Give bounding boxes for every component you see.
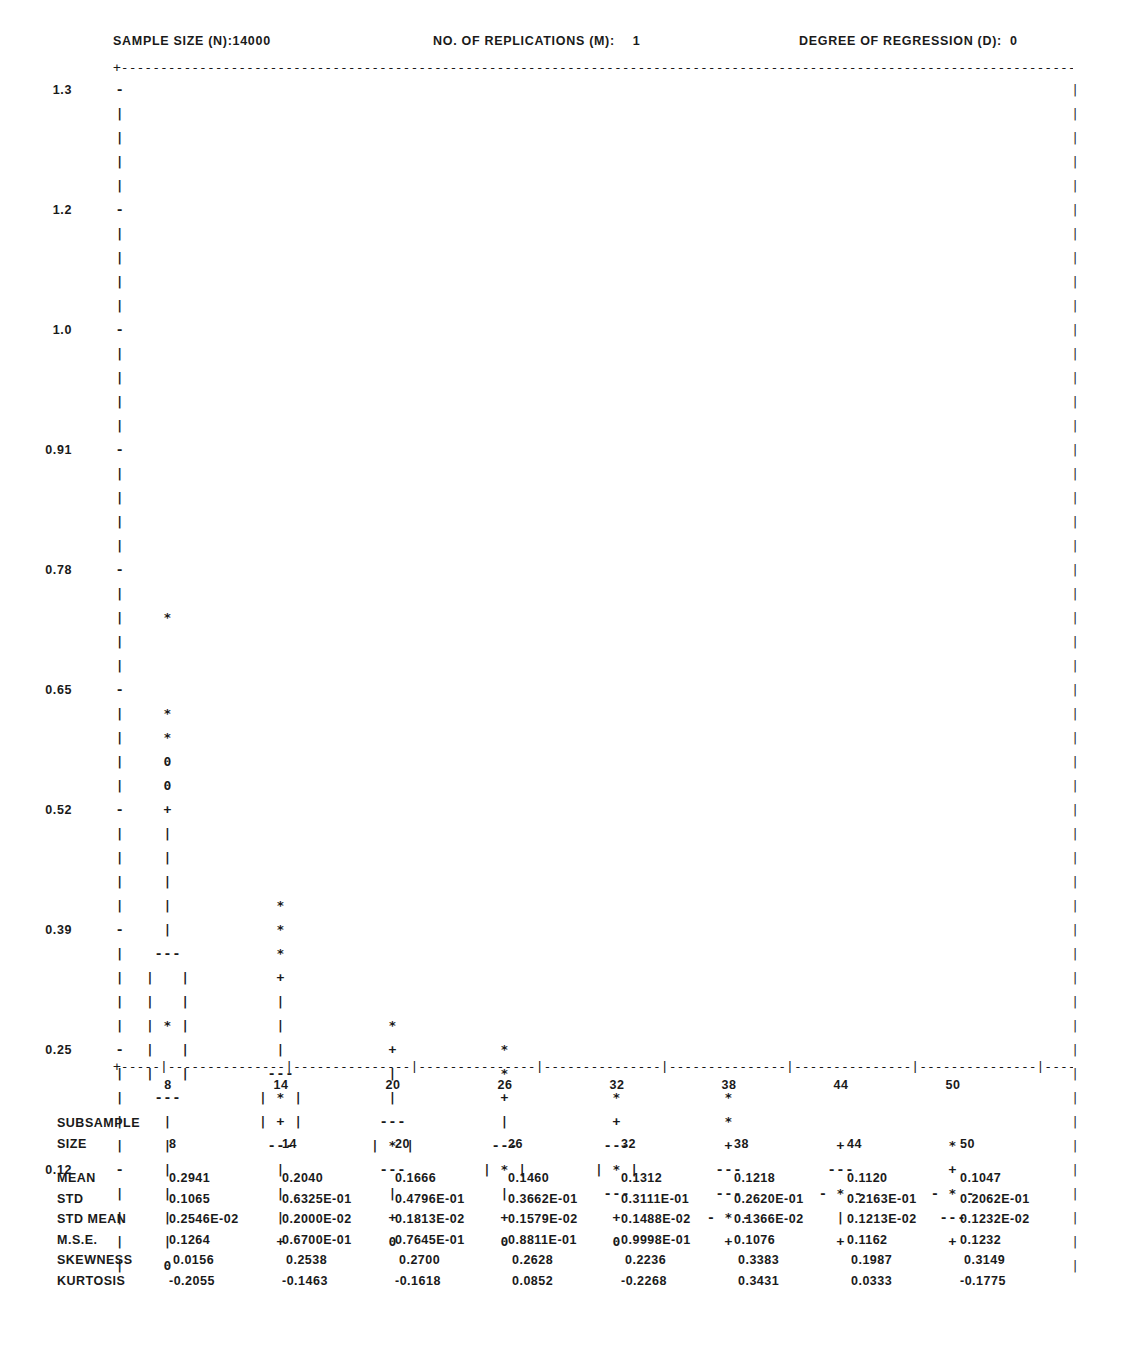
stats-cell-value: 0.1162: [847, 1233, 960, 1254]
stats-table-row: STD0.10650.6325E-010.4796E-010.3662E-010…: [57, 1192, 1073, 1213]
stats-header-spacer: [621, 1116, 734, 1137]
stats-cell-value: 0.1312: [621, 1171, 734, 1192]
stats-row-label: STD MEAN: [57, 1212, 169, 1233]
stats-header-spacer: [847, 1116, 960, 1137]
plot-glyph-row: +: [0, 798, 1130, 822]
plot-glyph-row: [0, 318, 1130, 342]
stats-column-header: 26: [508, 1137, 621, 1171]
stats-table-row: SKEWNESS 0.0156 0.2538 0.2700 0.2628 0.2…: [57, 1253, 1073, 1274]
plot-glyph-row: ---*: [0, 942, 1130, 966]
stats-column-header: 44: [847, 1137, 960, 1171]
stats-column-header: 14: [282, 1137, 395, 1171]
stats-cell-value: 0.3149: [960, 1253, 1073, 1274]
box-plot-glyph-8: | |: [140, 966, 196, 990]
stats-header-spacer: [169, 1116, 282, 1137]
plot-glyph-row: | * ||*: [0, 1014, 1130, 1038]
stats-cell-value: 0.3662E-01: [508, 1192, 621, 1213]
plot-glyph-row: [0, 102, 1130, 126]
box-plot-glyph-8: *: [140, 702, 196, 726]
box-plot-glyph-14: |: [253, 1038, 309, 1062]
stats-table-element: SUBSAMPLESIZE814202632384450MEAN0.29410.…: [57, 1116, 1073, 1294]
x-axis-tick-label: 50: [923, 1078, 983, 1092]
stats-cell-value: 0.1987: [847, 1253, 960, 1274]
stats-row-label: M.S.E.: [57, 1233, 169, 1254]
plot-glyph-row: |: [0, 822, 1130, 846]
stats-header-spacer: [734, 1116, 847, 1137]
plot-glyph-row: [0, 534, 1130, 558]
stats-table-row: STD MEAN0.2546E-020.2000E-020.1813E-020.…: [57, 1212, 1073, 1233]
stats-column-header: 20: [395, 1137, 508, 1171]
stats-cell-value: 0.1366E-02: [734, 1212, 847, 1233]
box-plot-glyph-14: |: [253, 990, 309, 1014]
box-plot-glyph-8: 0: [140, 750, 196, 774]
box-plot-glyph-14: *: [253, 918, 309, 942]
box-plot-glyph-8: |: [140, 894, 196, 918]
plot-glyph-row: [0, 78, 1130, 102]
stats-cell-value: -0.1775: [960, 1274, 1073, 1295]
stats-cell-value: 0.1218: [734, 1171, 847, 1192]
stats-row-label: STD: [57, 1192, 169, 1213]
stats-title-size: SIZE: [57, 1137, 169, 1171]
stats-cell-value: 0.1813E-02: [395, 1212, 508, 1233]
stats-cell-value: 0.1047: [960, 1171, 1073, 1192]
plot-glyph-row: [0, 270, 1130, 294]
box-plot-glyph-14: *: [253, 894, 309, 918]
plot-glyph-row: [0, 222, 1130, 246]
box-plot-glyph-8: +: [140, 798, 196, 822]
plot-glyph-row: [0, 630, 1130, 654]
plot-glyph-row: [0, 198, 1130, 222]
stats-column-header: 50: [960, 1137, 1073, 1171]
box-plot-glyph-8: |: [140, 846, 196, 870]
plot-glyph-row: [0, 294, 1130, 318]
stats-row-label: KURTOSIS: [57, 1274, 169, 1295]
stats-table-row: KURTOSIS-0.2055-0.1463-0.1618 0.0852-0.2…: [57, 1274, 1073, 1295]
stats-cell-value: 0.2236: [621, 1253, 734, 1274]
x-axis-tick-label: 8: [138, 1078, 198, 1092]
plot-glyph-row: | ||: [0, 990, 1130, 1014]
plot-glyph-row: [0, 462, 1130, 486]
stats-cell-value: 0.1232: [960, 1233, 1073, 1254]
plot-glyph-row: [0, 174, 1130, 198]
stats-header-row-2: SIZE814202632384450: [57, 1137, 1073, 1171]
stats-cell-value: 0.6700E-01: [282, 1233, 395, 1254]
plot-glyph-row: |*: [0, 918, 1130, 942]
stats-cell-value: 0.2628: [508, 1253, 621, 1274]
stats-cell-value: 0.3431: [734, 1274, 847, 1295]
stats-cell-value: 0.2620E-01: [734, 1192, 847, 1213]
stats-cell-value: 0.1232E-02: [960, 1212, 1073, 1233]
stats-cell-value: 0.1213E-02: [847, 1212, 960, 1233]
box-plot-glyph-8: *: [140, 606, 196, 630]
stats-table-row: M.S.E.0.12640.6700E-010.7645E-010.8811E-…: [57, 1233, 1073, 1254]
stats-cell-value: 0.8811E-01: [508, 1233, 621, 1254]
box-plot-glyph-8: | |: [140, 990, 196, 1014]
stats-cell-value: 0.2538: [282, 1253, 395, 1274]
plot-glyph-row: [0, 678, 1130, 702]
x-axis-tick-label: 32: [587, 1078, 647, 1092]
plot-glyph-row: |: [0, 846, 1130, 870]
stats-cell-value: 0.2546E-02: [169, 1212, 282, 1233]
stats-column-header: 38: [734, 1137, 847, 1171]
stats-cell-value: 0.2000E-02: [282, 1212, 395, 1233]
stats-cell-value: -0.2055: [169, 1274, 282, 1295]
box-plot-glyph-8: 0: [140, 774, 196, 798]
stats-cell-value: 0.1666: [395, 1171, 508, 1192]
stats-column-header: 32: [621, 1137, 734, 1171]
plot-glyph-row: [0, 510, 1130, 534]
box-plot-glyph-20: +: [365, 1038, 421, 1062]
stats-cell-value: 0.1460: [508, 1171, 621, 1192]
plot-glyph-row: [0, 558, 1130, 582]
plot-glyph-row: [0, 150, 1130, 174]
stats-cell-value: 0.1264: [169, 1233, 282, 1254]
stats-cell-value: 0.1120: [847, 1171, 960, 1192]
box-plot-chart: +---------------------------------------…: [0, 0, 1130, 1090]
stats-cell-value: -0.1463: [282, 1274, 395, 1295]
plot-bottom-axis: +-----|---------------|---------------|-…: [113, 1061, 1073, 1073]
plot-glyph-row: [0, 246, 1130, 270]
stats-cell-value: 0.0852: [508, 1274, 621, 1295]
stats-cell-value: 0.9998E-01: [621, 1233, 734, 1254]
stats-row-label: MEAN: [57, 1171, 169, 1192]
stats-header-spacer: [508, 1116, 621, 1137]
plot-glyph-row: *: [0, 606, 1130, 630]
stats-cell-value: 0.0156: [169, 1253, 282, 1274]
stats-cell-value: 0.1488E-02: [621, 1212, 734, 1233]
